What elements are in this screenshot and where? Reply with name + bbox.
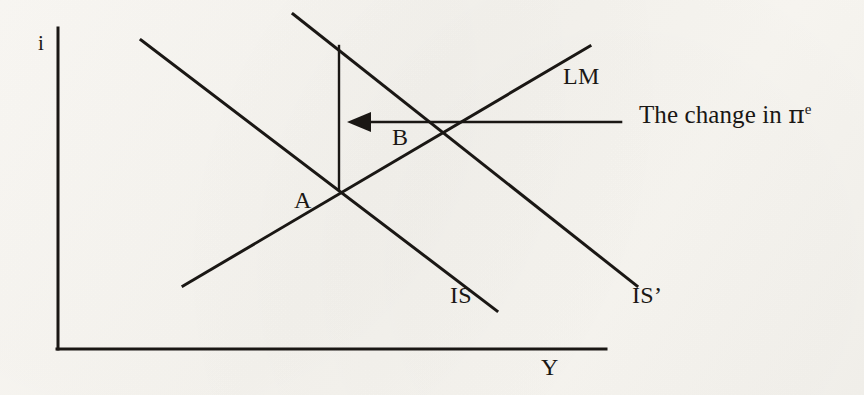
is-curve: [141, 40, 497, 311]
point-a-label: A: [294, 188, 311, 212]
is-prime-curve-label: IS’: [632, 283, 662, 307]
pi-symbol: π: [788, 100, 805, 129]
y-axis-label: i: [38, 33, 44, 54]
is-curve-label: IS: [450, 283, 472, 307]
shift-arrow-head: [347, 112, 371, 132]
is-prime-curve: [293, 14, 637, 286]
is-lm-figure: i Y LM IS IS’ A B The change in πe: [0, 0, 864, 395]
expected-superscript: e: [805, 101, 812, 117]
x-axis-label: Y: [541, 355, 558, 379]
diagram-canvas: [0, 0, 864, 395]
point-b-label: B: [392, 125, 408, 149]
lm-curve-label: LM: [563, 64, 600, 88]
shift-annotation-prefix: The change in: [639, 101, 788, 128]
lm-curve: [183, 46, 590, 286]
shift-annotation-text: The change in πe: [639, 102, 812, 127]
